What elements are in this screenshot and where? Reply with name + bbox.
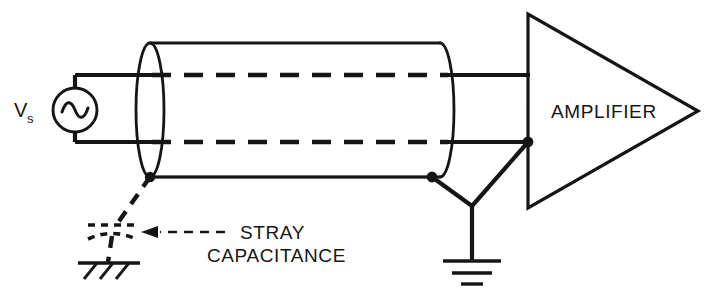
ground-v-right-leg	[472, 142, 528, 206]
cable-right-end-arc	[440, 43, 454, 177]
chassis-ground-hatch-2	[100, 263, 113, 279]
source-label-subscript: s	[27, 111, 34, 126]
shield-right-junction-dot	[427, 172, 438, 183]
annotation-arrow-head	[141, 226, 158, 238]
stray-label-line1: STRAY	[240, 222, 305, 243]
source-label: V	[14, 99, 28, 121]
chassis-ground	[78, 263, 140, 279]
chassis-ground-hatch-1	[84, 263, 97, 279]
cable-left-end-ellipse	[136, 43, 164, 177]
shield-left-junction-dot	[145, 172, 155, 182]
ac-voltage-source	[53, 88, 97, 132]
stray-capacitance	[88, 225, 136, 262]
schematic-canvas: V s STRAY CAPACITANCE	[0, 0, 717, 294]
shielded-cable	[136, 43, 454, 177]
earth-ground	[443, 261, 501, 284]
chassis-ground-hatch-3	[116, 263, 129, 279]
inner-conductors	[152, 75, 448, 142]
amplifier-wiring	[427, 75, 534, 260]
amplifier: AMPLIFIER	[528, 14, 698, 208]
capacitor-ground-lead	[108, 236, 112, 262]
shield-return-path	[117, 172, 432, 224]
ground-v-left-leg	[432, 177, 472, 206]
amplifier-label: AMPLIFIER	[551, 101, 657, 122]
stray-label-line2: CAPACITANCE	[207, 245, 346, 266]
stray-capacitor-lead	[117, 177, 150, 224]
stray-capacitance-pointer	[141, 226, 225, 238]
schematic-diagram: V s STRAY CAPACITANCE	[0, 0, 717, 294]
